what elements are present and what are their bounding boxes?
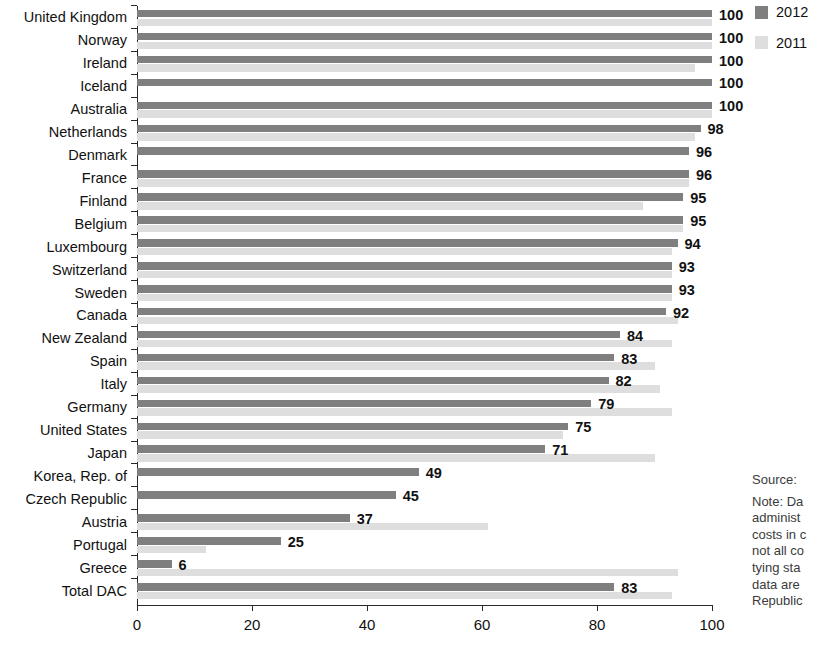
category-label: Austria <box>82 515 127 530</box>
category-label: Korea, Rep. of <box>34 469 128 484</box>
note-line: not all co <box>752 543 836 560</box>
bar-2012 <box>137 468 419 476</box>
x-axis-tick <box>482 605 483 611</box>
bar-row: Netherlands98 <box>137 121 712 144</box>
bar-2011 <box>137 271 672 279</box>
legend-item-2011: 2011 <box>755 36 836 51</box>
bar-2012 <box>137 102 712 110</box>
y-axis-tick <box>131 165 137 166</box>
category-label: Greece <box>79 560 127 575</box>
x-axis-tick <box>712 605 713 611</box>
y-axis-tick <box>131 578 137 579</box>
x-axis-tick <box>137 605 138 611</box>
bar-2011 <box>137 202 643 210</box>
bar-2012 <box>137 33 712 41</box>
y-axis-tick <box>131 97 137 98</box>
plot-area: United Kingdom100Norway100Ireland100Icel… <box>137 6 712 602</box>
bar-2011 <box>137 569 678 577</box>
category-label: Spain <box>90 354 127 369</box>
bar-2011 <box>137 248 672 256</box>
category-label: Iceland <box>80 79 127 94</box>
bar-2012 <box>137 285 672 293</box>
x-axis-tick <box>252 605 253 611</box>
bar-2012 <box>137 354 614 362</box>
bar-2012 <box>137 560 172 568</box>
value-label: 96 <box>696 145 712 160</box>
category-label: United States <box>40 423 127 438</box>
bar-2012 <box>137 170 689 178</box>
y-axis-tick <box>131 509 137 510</box>
y-axis-tick <box>131 532 137 533</box>
category-label: Switzerland <box>52 262 127 277</box>
x-axis-tick <box>597 605 598 611</box>
bar-2012 <box>137 56 712 64</box>
bar-2012 <box>137 125 701 133</box>
value-label: 100 <box>719 31 743 46</box>
value-label: 95 <box>690 191 706 206</box>
value-label: 93 <box>679 260 695 275</box>
category-label: Italy <box>100 377 127 392</box>
value-label: 83 <box>621 581 637 596</box>
legend-label-2012: 2012 <box>776 5 808 20</box>
bar-row: Czech Republic45 <box>137 487 712 510</box>
bar-2012 <box>137 445 545 453</box>
value-label: 84 <box>627 329 643 344</box>
category-label: Belgium <box>75 217 127 232</box>
y-axis-tick <box>131 257 137 258</box>
category-label: Finland <box>79 194 127 209</box>
bar-2012 <box>137 193 683 201</box>
category-label: Portugal <box>73 537 127 552</box>
bar-2012 <box>137 331 620 339</box>
note-line: administ <box>752 510 836 527</box>
bar-2011 <box>137 340 672 348</box>
category-label: France <box>82 171 127 186</box>
value-label: 93 <box>679 283 695 298</box>
value-label: 95 <box>690 214 706 229</box>
category-label: United Kingdom <box>24 10 127 25</box>
value-label: 98 <box>708 122 724 137</box>
category-label: Japan <box>87 446 127 461</box>
y-axis-tick <box>131 120 137 121</box>
x-axis-tick-label: 100 <box>699 616 724 633</box>
category-label: Total DAC <box>62 583 127 598</box>
value-label: 94 <box>685 237 701 252</box>
value-label: 25 <box>288 535 304 550</box>
category-label: Ireland <box>83 56 127 71</box>
y-axis-tick <box>131 5 137 6</box>
bar-2012 <box>137 400 591 408</box>
y-axis-tick <box>131 486 137 487</box>
category-label: Czech Republic <box>25 492 127 507</box>
bar-2012 <box>137 514 350 522</box>
bar-2011 <box>137 408 672 416</box>
bar-row: Italy82 <box>137 373 712 396</box>
bar-row: Luxembourg94 <box>137 235 712 258</box>
y-axis-tick <box>131 326 137 327</box>
bar-row: Japan71 <box>137 442 712 465</box>
bar-2011 <box>137 362 655 370</box>
x-axis-tick-label: 0 <box>133 616 141 633</box>
value-label: 37 <box>357 512 373 527</box>
bar-2011 <box>137 294 672 302</box>
legend-swatch-2012-icon <box>755 6 768 19</box>
x-axis-ticks: 020406080100 <box>137 605 713 645</box>
bar-2012 <box>137 79 712 87</box>
value-label: 92 <box>673 306 689 321</box>
bar-2011 <box>137 179 689 187</box>
value-label: 100 <box>719 54 743 69</box>
note-line: tying sta <box>752 560 836 577</box>
y-axis-tick <box>131 280 137 281</box>
legend-item-2012: 2012 <box>755 5 836 20</box>
bar-row: New Zealand84 <box>137 327 712 350</box>
bar-row: Belgium95 <box>137 212 712 235</box>
legend-swatch-2011-icon <box>755 36 768 49</box>
bar-2011 <box>137 317 678 325</box>
y-axis-tick <box>131 349 137 350</box>
value-label: 83 <box>621 352 637 367</box>
bar-2011 <box>137 431 563 439</box>
bar-row: Spain83 <box>137 350 712 373</box>
bar-2011 <box>137 133 695 141</box>
bar-chart-figure: United Kingdom100Norway100Ireland100Icel… <box>0 0 836 659</box>
x-axis-tick-label: 80 <box>589 616 606 633</box>
y-axis-tick <box>131 395 137 396</box>
bar-row: United States75 <box>137 419 712 442</box>
